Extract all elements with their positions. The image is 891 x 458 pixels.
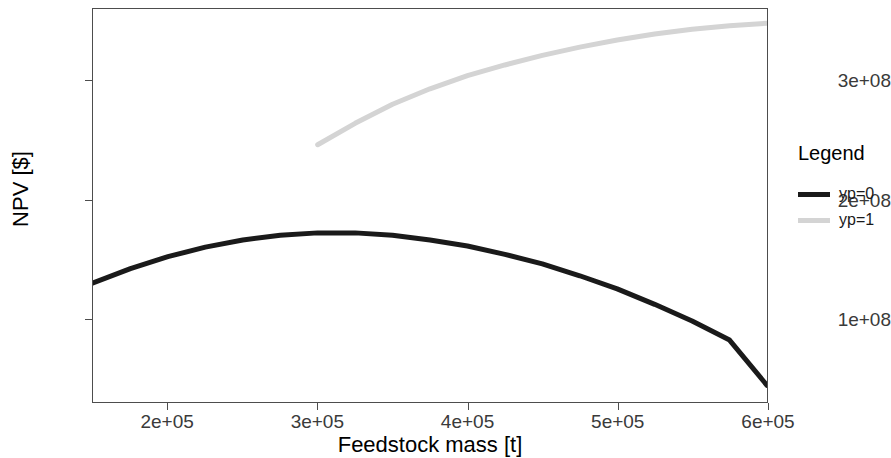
y-tick-mark [85, 200, 92, 201]
y-tick-label: 3e+08 [807, 71, 891, 90]
x-tick-label: 6e+05 [718, 411, 818, 433]
y-tick-mark [85, 80, 92, 81]
legend-item[interactable]: yp=0 [798, 181, 888, 207]
legend-title: Legend [798, 142, 888, 165]
y-tick-label: 1e+08 [807, 310, 891, 329]
legend-label: yp=1 [839, 211, 874, 229]
series-line-yp0 [93, 233, 767, 385]
curves-svg [93, 9, 767, 402]
x-tick-label: 2e+05 [117, 411, 217, 433]
x-tick-label: 5e+05 [568, 411, 668, 433]
x-tick-mark [468, 403, 469, 410]
legend-item[interactable]: yp=1 [798, 207, 888, 233]
legend-key-line-icon [798, 218, 830, 223]
legend: Legend yp=0yp=1 [798, 142, 888, 233]
legend-key-line-icon [798, 192, 830, 197]
x-tick-mark [317, 403, 318, 410]
legend-label: yp=0 [839, 185, 874, 203]
y-axis-title: NPV [$] [8, 124, 34, 254]
y-tick-mark [85, 319, 92, 320]
x-tick-mark [768, 403, 769, 410]
series-line-yp1 [318, 23, 767, 144]
x-axis-title: Feedstock mass [t] [92, 432, 768, 458]
x-tick-mark [618, 403, 619, 410]
x-tick-label: 3e+05 [267, 411, 367, 433]
plot-panel [92, 8, 768, 403]
x-tick-mark [167, 403, 168, 410]
x-tick-label: 4e+05 [418, 411, 518, 433]
legend-items: yp=0yp=1 [798, 181, 888, 233]
